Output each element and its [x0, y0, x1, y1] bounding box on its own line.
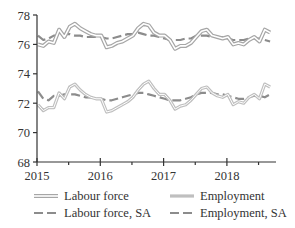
y-tick-label: 70	[18, 126, 31, 140]
x-axis: 2015201620172018	[25, 158, 277, 183]
y-axis: 687072747678	[18, 9, 38, 170]
y-tick-label: 72	[18, 97, 31, 111]
legend-item-labour-force-sa: Labour force, SA	[34, 206, 151, 220]
x-tick-label: 2017	[151, 169, 176, 183]
y-tick-label: 68	[18, 156, 31, 170]
y-tick-label: 76	[18, 38, 31, 52]
legend-label: Labour force, SA	[64, 206, 151, 220]
legend-item-employment-sa: Employment, SA	[170, 206, 287, 220]
y-tick-label: 74	[18, 67, 31, 81]
legend-label: Labour force	[64, 189, 129, 203]
legend: Labour force Labour force, SA Employment…	[34, 189, 287, 220]
x-tick-label: 2016	[88, 169, 113, 183]
series-line-employment-sa	[38, 91, 270, 100]
y-tick-label: 78	[18, 9, 31, 23]
plot-series	[38, 24, 270, 112]
x-tick-label: 2018	[214, 169, 239, 183]
x-tick-label: 2015	[25, 169, 50, 183]
legend-label: Employment, SA	[200, 206, 287, 220]
legend-item-employment: Employment	[170, 189, 265, 203]
legend-label: Employment	[200, 189, 265, 203]
line-chart: 687072747678 2015201620172018 Labour for…	[0, 0, 295, 228]
legend-item-labour-force: Labour force	[34, 189, 129, 203]
